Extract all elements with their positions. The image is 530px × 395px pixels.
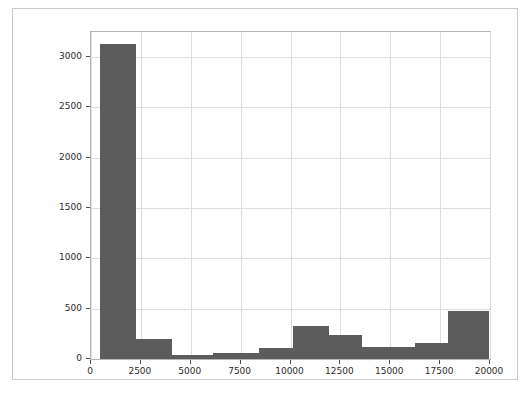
histogram-screenshot: 050010001500200025003000 025005000750010…: [0, 0, 530, 395]
bars-layer: [91, 32, 490, 359]
x-tick-mark: [90, 360, 91, 364]
x-tick-mark: [489, 360, 490, 364]
gridline-vertical: [490, 32, 491, 359]
x-axis: 02500500075001000012500150001750020000: [90, 360, 491, 384]
x-tick-label: 17500: [425, 367, 454, 376]
histogram-bar: [100, 44, 136, 359]
histogram-bar: [362, 347, 397, 359]
y-tick-label: 2500: [59, 102, 82, 111]
x-tick-mark: [339, 360, 340, 364]
x-tick-label: 7500: [228, 367, 251, 376]
y-axis: 050010001500200025003000: [53, 31, 90, 360]
x-tick-mark: [240, 360, 241, 364]
histogram-bar: [213, 353, 238, 359]
plot-area: [90, 31, 491, 360]
histogram-bar: [329, 335, 362, 359]
histogram-bar: [397, 347, 415, 359]
x-tick-label: 10000: [275, 367, 304, 376]
figure-frame: 050010001500200025003000 025005000750010…: [12, 8, 518, 380]
histogram-bar: [238, 353, 259, 359]
x-tick-label: 2500: [128, 367, 151, 376]
y-tick-label: 1500: [59, 203, 82, 212]
x-tick-label: 12500: [325, 367, 354, 376]
y-tick-label: 0: [76, 354, 82, 363]
x-tick-mark: [439, 360, 440, 364]
x-tick-mark: [290, 360, 291, 364]
histogram-bar: [448, 311, 489, 359]
y-tick-label: 1000: [59, 253, 82, 262]
histogram-bar: [415, 343, 448, 359]
x-tick-mark: [389, 360, 390, 364]
histogram-bar: [259, 348, 294, 359]
y-tick-label: 3000: [59, 52, 82, 61]
x-tick-mark: [190, 360, 191, 364]
histogram-bar: [293, 326, 329, 359]
y-tick-label: 500: [65, 303, 82, 312]
x-tick-mark: [140, 360, 141, 364]
y-tick-label: 2000: [59, 152, 82, 161]
histogram-bar: [172, 355, 213, 359]
x-tick-label: 15000: [375, 367, 404, 376]
x-tick-label: 20000: [475, 367, 504, 376]
x-tick-label: 5000: [178, 367, 201, 376]
histogram-bar: [136, 339, 172, 359]
x-tick-label: 0: [87, 367, 93, 376]
